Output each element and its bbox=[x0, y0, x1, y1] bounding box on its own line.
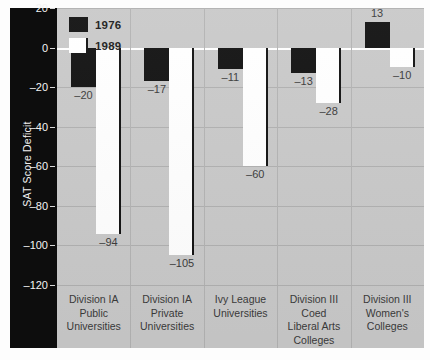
gridline-vertical bbox=[130, 8, 131, 348]
bar-1989-1 bbox=[96, 48, 121, 234]
category-label-line: Division III bbox=[279, 293, 348, 307]
bar-1976-4 bbox=[291, 48, 316, 74]
y-axis-tick-label: –80 bbox=[8, 201, 48, 212]
category-label-3: Ivy LeagueUniversities bbox=[206, 293, 275, 320]
category-label-line: Division III bbox=[353, 293, 422, 307]
legend-item-1989: 1989 bbox=[69, 37, 121, 54]
category-label-line: Colleges bbox=[279, 334, 348, 348]
y-axis-tick-label: –40 bbox=[8, 122, 48, 133]
y-axis-tick-label: 0 bbox=[8, 43, 48, 54]
legend: 1976 1989 bbox=[69, 16, 121, 58]
bar-1976-5 bbox=[365, 22, 390, 48]
chart-figure: SAT Score Deficit 200–20–40–60–80–100–12… bbox=[0, 0, 430, 360]
value-label-1976-1: –20 bbox=[62, 90, 106, 101]
category-label-line: Universities bbox=[132, 320, 201, 334]
bar-1989-3 bbox=[243, 48, 268, 167]
category-label-line: Women's bbox=[353, 307, 422, 321]
value-label-1989-3: –60 bbox=[233, 169, 277, 180]
bar-1989-5 bbox=[390, 48, 415, 68]
y-axis-tick-mark bbox=[50, 245, 55, 246]
value-label-1989-5: –10 bbox=[380, 70, 424, 81]
legend-swatch-1989-icon bbox=[69, 38, 88, 53]
y-axis-tick-label: –100 bbox=[8, 240, 48, 251]
legend-label-1976: 1976 bbox=[95, 19, 121, 31]
y-axis-tick-mark bbox=[50, 87, 55, 88]
plot-area: –20–17–11–1313–94–105–60–28–10 Division … bbox=[57, 8, 424, 348]
bar-1989-4 bbox=[316, 48, 341, 103]
y-axis-tick-label: –120 bbox=[8, 280, 48, 291]
category-label-line: Private bbox=[132, 307, 201, 321]
value-label-1976-5: 13 bbox=[355, 8, 399, 19]
y-axis-tick-mark bbox=[50, 48, 55, 49]
legend-swatch-1976-icon bbox=[69, 17, 88, 32]
y-axis-tick-mark bbox=[50, 166, 55, 167]
category-label-line: Division IA bbox=[132, 293, 201, 307]
y-axis-tick-mark bbox=[50, 8, 55, 9]
y-axis-tick-mark bbox=[50, 206, 55, 207]
y-axis-tick-label: –20 bbox=[8, 82, 48, 93]
y-axis-tick-mark bbox=[50, 127, 55, 128]
value-label-1989-2: –105 bbox=[160, 258, 204, 269]
y-axis-tick-label: 20 bbox=[8, 3, 48, 14]
category-label-line: Division IA bbox=[59, 293, 128, 307]
category-label-1: Division IAPublicUniversities bbox=[59, 293, 128, 334]
y-axis-tick-mark bbox=[50, 285, 55, 286]
category-label-line: Ivy League bbox=[206, 293, 275, 307]
category-label-line: Universities bbox=[59, 320, 128, 334]
category-label-5: Division IIIWomen'sColleges bbox=[353, 293, 422, 334]
bar-1976-3 bbox=[218, 48, 243, 70]
bar-1976-2 bbox=[144, 48, 169, 82]
category-label-line: Public bbox=[59, 307, 128, 321]
bar-1989-2 bbox=[169, 48, 194, 256]
category-label-4: Division IIICoedLiberal ArtsColleges bbox=[279, 293, 348, 347]
value-label-1976-4: –13 bbox=[282, 76, 326, 87]
category-label-line: Universities bbox=[206, 307, 275, 321]
value-label-1989-4: –28 bbox=[307, 106, 351, 117]
value-label-1976-2: –17 bbox=[135, 84, 179, 95]
legend-label-1989: 1989 bbox=[95, 40, 121, 52]
legend-item-1976: 1976 bbox=[69, 16, 121, 33]
y-axis-strip: SAT Score Deficit 200–20–40–60–80–100–12… bbox=[10, 8, 57, 348]
category-label-2: Division IAPrivateUniversities bbox=[132, 293, 201, 334]
y-axis-tick-label: –60 bbox=[8, 161, 48, 172]
category-axis-divider bbox=[57, 285, 424, 286]
category-label-line: Liberal Arts bbox=[279, 320, 348, 334]
value-label-1989-1: –94 bbox=[87, 237, 131, 248]
value-label-1976-3: –11 bbox=[208, 72, 252, 83]
category-label-line: Colleges bbox=[353, 320, 422, 334]
category-label-line: Coed bbox=[279, 307, 348, 321]
